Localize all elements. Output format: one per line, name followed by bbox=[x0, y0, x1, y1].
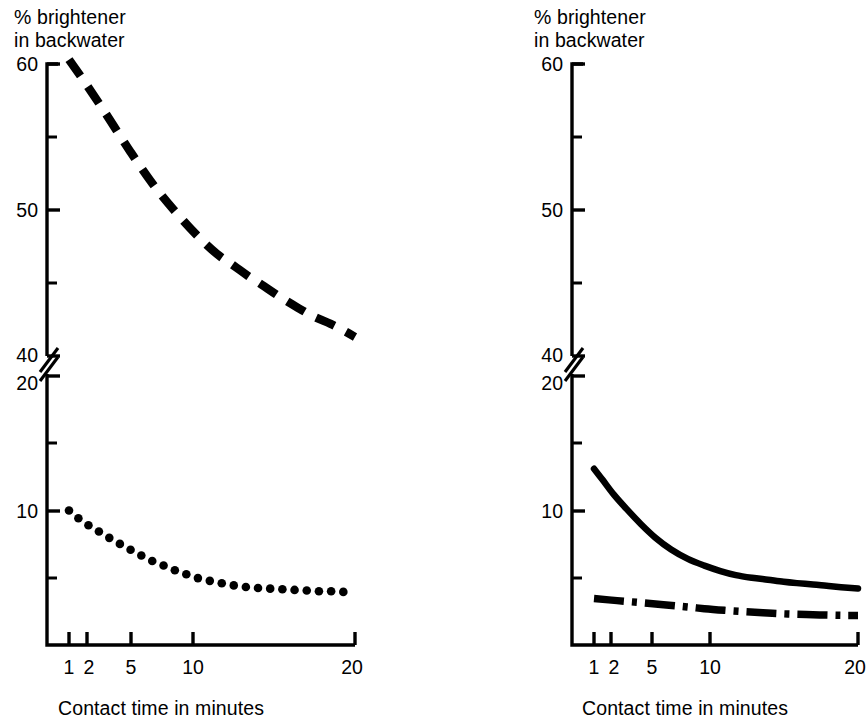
series-dot-marker bbox=[327, 587, 336, 596]
series-dot-marker bbox=[217, 579, 226, 588]
series-dot-marker bbox=[159, 561, 168, 570]
series-dot-marker bbox=[95, 527, 104, 536]
series-dot-marker bbox=[242, 583, 251, 592]
chart-panel-left: % brightenerin backwater bbox=[0, 0, 440, 720]
y-major-ticks-upper-right bbox=[572, 64, 585, 356]
x-tick-label-2-left: 2 bbox=[84, 656, 95, 678]
series-dot-marker bbox=[266, 584, 275, 593]
x-tick-label-10-right: 10 bbox=[699, 656, 721, 678]
series-upper-dashed-curve-left bbox=[69, 60, 355, 337]
series-dot-marker bbox=[229, 581, 238, 590]
series-dash-dot-curve-right bbox=[594, 599, 858, 616]
y-tick-label-10-left: 10 bbox=[16, 500, 38, 522]
chart-panel-right: % brightenerin backwater bbox=[440, 0, 868, 720]
y-tick-label-50-right: 50 bbox=[541, 199, 563, 221]
series-dot-marker bbox=[278, 585, 287, 594]
plot-area-left: 60 50 40 20 10 1 2 5 10 20 bbox=[0, 0, 440, 720]
series-group-right bbox=[594, 469, 858, 616]
figure-two-panel-chart: % brightenerin backwater bbox=[0, 0, 868, 720]
series-dot-marker bbox=[148, 557, 157, 566]
x-tick-label-5-right: 5 bbox=[647, 656, 658, 678]
y-tick-label-40-right: 40 bbox=[541, 344, 563, 366]
series-dot-marker bbox=[254, 584, 263, 593]
x-tick-label-5-left: 5 bbox=[126, 656, 137, 678]
series-dot-marker bbox=[290, 586, 299, 595]
series-group-left bbox=[65, 60, 355, 597]
series-dot-marker bbox=[65, 506, 74, 515]
y-major-ticks-upper-left bbox=[47, 64, 60, 356]
series-dot-marker bbox=[205, 577, 214, 586]
series-dot-marker bbox=[182, 570, 191, 579]
series-lower-dotted-curve-left bbox=[65, 506, 348, 596]
series-dot-marker bbox=[74, 514, 83, 523]
x-axis-caption-left: Contact time in minutes bbox=[58, 697, 264, 720]
series-dot-marker bbox=[302, 586, 311, 595]
series-dot-marker bbox=[126, 546, 135, 555]
series-dot-marker bbox=[84, 521, 93, 530]
x-tick-label-1-left: 1 bbox=[64, 656, 75, 678]
x-ticks-left bbox=[69, 632, 355, 645]
y-tick-label-20-right: 20 bbox=[541, 372, 563, 394]
series-dot-marker bbox=[339, 588, 348, 597]
y-tick-label-60-right: 60 bbox=[541, 53, 563, 75]
series-dot-marker bbox=[194, 574, 203, 583]
x-tick-label-20-right: 20 bbox=[844, 656, 866, 678]
series-dot-marker bbox=[171, 566, 180, 575]
x-axis-caption-right: Contact time in minutes bbox=[582, 697, 788, 720]
y-tick-label-60-left: 60 bbox=[16, 53, 38, 75]
x-tick-label-20-left: 20 bbox=[341, 656, 363, 678]
series-solid-curve-right bbox=[594, 469, 858, 589]
series-dot-marker bbox=[116, 540, 125, 549]
y-tick-label-40-left: 40 bbox=[16, 344, 38, 366]
series-dot-marker bbox=[105, 534, 114, 543]
series-dot-marker bbox=[315, 587, 324, 596]
x-tick-label-1-right: 1 bbox=[589, 656, 600, 678]
y-tick-label-50-left: 50 bbox=[16, 199, 38, 221]
plot-area-right: 60 50 40 20 10 1 2 5 10 20 bbox=[440, 0, 868, 720]
x-tick-label-2-right: 2 bbox=[609, 656, 620, 678]
x-ticks-right bbox=[594, 632, 858, 645]
y-axis-line-lower-left bbox=[47, 374, 355, 645]
x-tick-label-10-left: 10 bbox=[182, 656, 204, 678]
y-tick-label-20-left: 20 bbox=[16, 372, 38, 394]
y-tick-label-10-right: 10 bbox=[541, 500, 563, 522]
y-axis-line-lower-right bbox=[572, 374, 858, 645]
series-dot-marker bbox=[137, 551, 146, 560]
